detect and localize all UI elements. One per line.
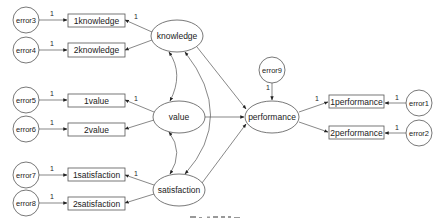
svg-text:1performance: 1performance [330, 97, 383, 107]
svg-text:1: 1 [315, 95, 319, 102]
error-term-error1: error1 [406, 90, 432, 116]
svg-text:satisfaction: satisfaction [158, 185, 201, 195]
svg-text:1: 1 [266, 84, 270, 91]
svg-text:1: 1 [134, 170, 138, 177]
indicator-2value: 2value [68, 123, 125, 136]
error-term-error8: error8 [13, 190, 39, 216]
error-term-error4: error4 [13, 37, 39, 63]
error-term-error3: error3 [13, 7, 39, 33]
svg-text:1: 1 [50, 165, 54, 172]
svg-text:2performance: 2performance [330, 128, 383, 138]
svg-text:performance: performance [248, 112, 296, 122]
svg-text:1: 1 [134, 95, 138, 102]
svg-text:knowledge: knowledge [157, 31, 198, 41]
svg-text:error2: error2 [409, 129, 429, 138]
latent-performance: performance [245, 101, 299, 133]
svg-text:2knowledge: 2knowledge [74, 45, 120, 55]
svg-text:value: value [169, 112, 190, 122]
latent-value: value [153, 101, 205, 133]
indicator-2knowledge: 2knowledge [68, 43, 125, 57]
error-term-error6: error6 [13, 116, 39, 142]
svg-text:error6: error6 [16, 125, 36, 134]
svg-text:1: 1 [50, 10, 54, 17]
svg-text:error3: error3 [16, 16, 36, 25]
error-term-error7: error7 [13, 162, 39, 188]
svg-text:1: 1 [134, 13, 138, 20]
svg-text:error8: error8 [16, 199, 36, 208]
svg-text:error1: error1 [409, 99, 429, 108]
svg-text:1: 1 [50, 90, 54, 97]
indicator-1knowledge: 1knowledge [68, 14, 125, 27]
caption-truncated [190, 216, 240, 218]
error-term-error5: error5 [13, 87, 39, 113]
svg-text:error7: error7 [16, 171, 36, 180]
latent-knowledge: knowledge [151, 20, 203, 52]
svg-text:1: 1 [50, 40, 54, 47]
svg-text:1: 1 [395, 124, 399, 131]
indicator-1satisfaction: 1satisfaction [68, 168, 125, 181]
indicator-2satisfaction: 2satisfaction [68, 197, 125, 210]
svg-text:error9: error9 [262, 66, 282, 75]
indicator-1value: 1value [68, 94, 125, 107]
svg-text:2satisfaction: 2satisfaction [73, 199, 121, 209]
error-term-error2: error2 [406, 120, 432, 146]
sem-diagram: 1 1 1 1 1 1 1 1 1 1 1 1 1 error3 error4 … [0, 0, 437, 218]
svg-text:1: 1 [50, 193, 54, 200]
error-term-error9: error9 [259, 57, 285, 83]
svg-text:1: 1 [50, 119, 54, 126]
latent-satisfaction: satisfaction [153, 174, 205, 206]
svg-text:2value: 2value [84, 125, 109, 135]
svg-text:1value: 1value [84, 96, 109, 106]
svg-text:1: 1 [395, 94, 399, 101]
indicator-2performance: 2performance [329, 126, 384, 139]
indicator-1performance: 1performance [329, 95, 384, 108]
svg-text:error5: error5 [16, 96, 36, 105]
svg-text:1knowledge: 1knowledge [74, 16, 120, 26]
svg-text:error4: error4 [16, 46, 36, 55]
svg-text:1satisfaction: 1satisfaction [73, 170, 121, 180]
